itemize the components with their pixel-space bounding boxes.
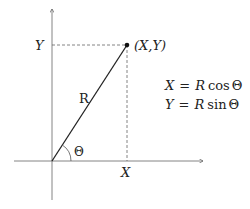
x-label: X: [120, 165, 131, 180]
polar-coordinates-diagram: (X,Y) Y X R Θ X=RcosΘ Y=RsinΘ: [0, 0, 250, 209]
angle-label: Θ: [74, 145, 84, 159]
equation-x: X=RcosΘ: [164, 78, 242, 93]
angle-arc: [62, 145, 71, 161]
svg-text:X=RcosΘ: X=RcosΘ: [164, 78, 242, 93]
y-label: Y: [35, 38, 45, 53]
radius-line: [52, 45, 127, 161]
svg-text:Y=RsinΘ: Y=RsinΘ: [165, 97, 239, 112]
point-label: (X,Y): [134, 38, 166, 53]
radius-label: R: [79, 91, 90, 106]
equation-y: Y=RsinΘ: [165, 97, 239, 112]
point-marker: [125, 43, 130, 48]
